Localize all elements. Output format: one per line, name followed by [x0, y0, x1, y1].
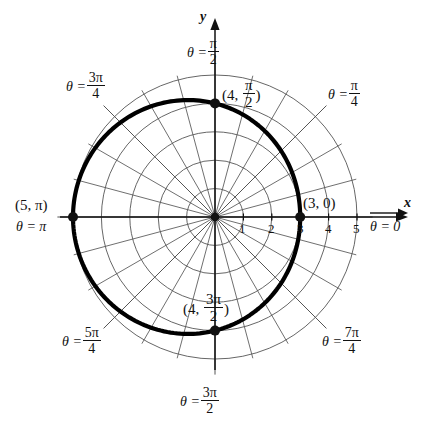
marked-point-3 [210, 326, 220, 336]
theta-eq-text: θ = π [16, 219, 46, 234]
y-axis-arrowhead [210, 18, 219, 30]
theta-eq-text: θ = [322, 334, 342, 349]
theta-label-3pi-over-2: θ =3π2 [180, 385, 220, 416]
origin-pole-dot [211, 213, 220, 222]
fraction-denominator: 4 [83, 341, 101, 356]
fraction-pi-2: π2 [208, 36, 219, 67]
fraction-denominator: 2 [243, 94, 255, 110]
fraction-5pi-4: 5π4 [83, 325, 101, 356]
theta-eq-text: θ = [187, 45, 207, 60]
point-open-text: (4, [222, 87, 242, 103]
fraction-7pi-4: 7π4 [343, 325, 361, 356]
fraction-denominator: 4 [87, 86, 105, 101]
theta-eq-text: θ = 0 [370, 219, 400, 234]
theta-eq-text: θ = [62, 334, 82, 349]
fraction-3pi-2: 3π2 [204, 291, 223, 324]
fraction-pi-2: π2 [243, 77, 255, 110]
theta-label-5pi-over-4: θ =5π4 [62, 325, 102, 356]
point-text: (3, 0) [303, 195, 336, 211]
fraction-denominator: 2 [201, 401, 219, 416]
fraction-numerator: 3π [204, 291, 223, 308]
x-tick-label-5: 5 [353, 222, 360, 235]
theta-label-7pi-over-4: θ =7π4 [322, 325, 362, 356]
fraction-numerator: 7π [343, 325, 361, 341]
fraction-pi-4: π4 [349, 78, 360, 109]
theta-label-zero: θ = 0 [370, 220, 400, 234]
x-tick-label-1: 1 [239, 222, 246, 235]
fraction-denominator: 2 [204, 308, 223, 324]
point-close-text: ) [224, 301, 229, 317]
fraction-numerator: π [349, 78, 360, 94]
marked-point-1 [210, 98, 220, 108]
fraction-numerator: 3π [87, 70, 105, 86]
fraction-3pi-2: 3π2 [201, 385, 219, 416]
x-axis-label: x [404, 196, 411, 210]
fraction-denominator: 4 [343, 341, 361, 356]
theta-label-pi: θ = π [16, 220, 46, 234]
theta-label-pi-over-2: θ =π2 [187, 36, 220, 67]
fraction-numerator: 5π [83, 325, 101, 341]
theta-eq-text: θ = [66, 79, 86, 94]
cartesian-axes [60, 18, 408, 370]
theta-label-pi-over-4: θ =π4 [328, 78, 361, 109]
point-label-5-pi: (5, π) [15, 198, 48, 213]
point-text: (5, π) [15, 197, 48, 213]
fraction-numerator: π [243, 77, 255, 94]
theta-label-3pi-over-4: θ =3π4 [66, 70, 106, 101]
fraction-numerator: 3π [201, 385, 219, 401]
x-tick-label-4: 4 [325, 222, 332, 235]
point-label-3-0: (3, 0) [303, 196, 336, 211]
point-open-text: (4, [183, 301, 203, 317]
fraction-numerator: π [208, 36, 219, 52]
fraction-denominator: 2 [208, 52, 219, 67]
point-label-4-pi-over-2: (4, π2) [222, 77, 261, 110]
fraction-denominator: 4 [349, 94, 360, 109]
point-label-4-3pi-over-2: (4, 3π2) [183, 291, 229, 324]
y-axis-label: y [200, 10, 206, 24]
fraction-3pi-4: 3π4 [87, 70, 105, 101]
marked-point-2 [68, 212, 78, 222]
point-close-text: ) [256, 87, 261, 103]
theta-eq-text: θ = [180, 394, 200, 409]
theta-eq-text: θ = [328, 87, 348, 102]
x-tick-label-3: 3 [297, 222, 304, 235]
x-tick-label-2: 2 [268, 222, 275, 235]
